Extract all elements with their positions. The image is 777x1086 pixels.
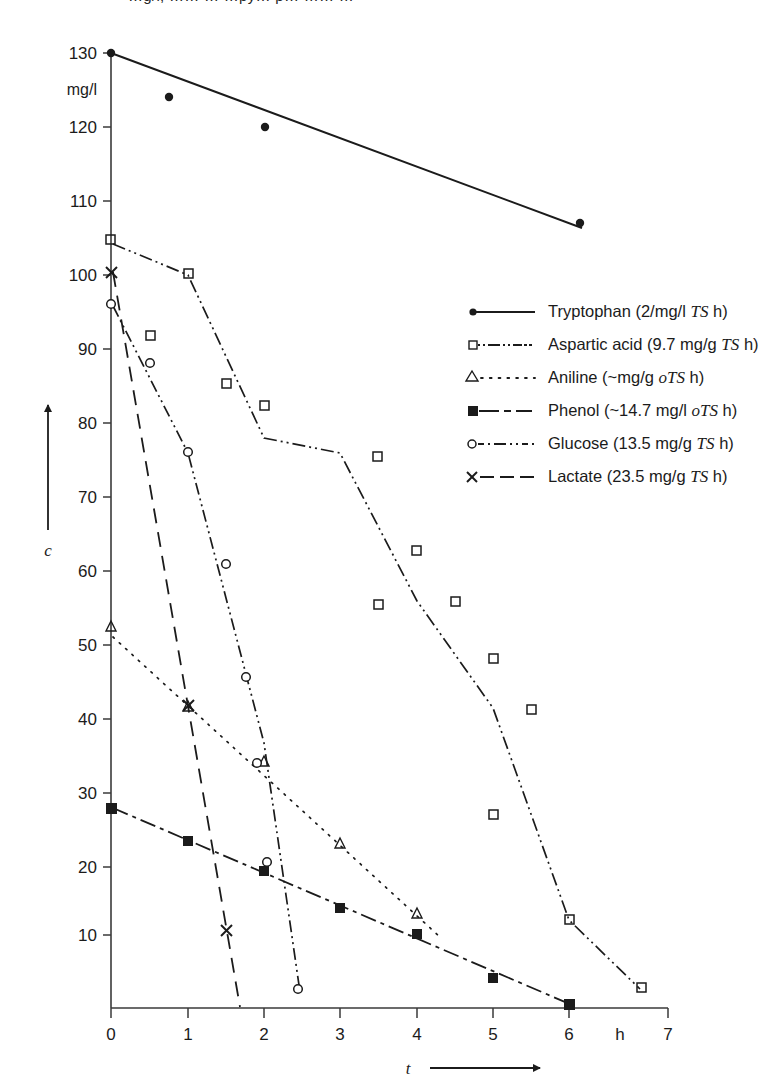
y-tick-label: 20 xyxy=(78,858,97,877)
y-axis-name-arrow: c xyxy=(44,405,52,560)
series-lactate xyxy=(106,267,240,1007)
data-point xyxy=(184,448,193,457)
y-axis-ticks xyxy=(103,53,111,935)
series-phenol xyxy=(106,803,575,1010)
data-point xyxy=(412,546,421,555)
y-tick-label: 30 xyxy=(78,784,97,803)
data-point xyxy=(564,999,575,1010)
data-point xyxy=(373,452,382,461)
data-point xyxy=(261,123,269,131)
x-tick-label: 3 xyxy=(335,1025,344,1044)
y-tick-label: 120 xyxy=(69,118,97,137)
legend-symbol-phenol xyxy=(468,406,535,416)
y-tick-label: 40 xyxy=(78,710,97,729)
series-tryptophan xyxy=(107,49,584,228)
y-axis-tick-labels: 130 120 110 100 90 80 70 60 50 40 30 20 … xyxy=(67,44,97,945)
y-axis-unit-label: mg/l xyxy=(67,81,97,98)
x-axis-tick-labels: 0 1 2 3 4 5 6 h 7 xyxy=(106,1025,672,1044)
data-point xyxy=(263,858,272,867)
x-tick-label: 6 xyxy=(564,1025,573,1044)
y-tick-label: 60 xyxy=(78,562,97,581)
figure-container: …g/l, …… … …py… p… …… … xyxy=(0,0,777,1086)
x-tick-label: 7 xyxy=(663,1025,672,1044)
y-axis-symbol: c xyxy=(44,541,52,560)
data-point xyxy=(221,925,232,936)
data-point xyxy=(259,866,269,876)
data-point xyxy=(488,973,498,983)
data-point xyxy=(222,379,231,388)
data-point xyxy=(576,219,584,227)
data-point xyxy=(107,300,116,309)
y-tick-label: 110 xyxy=(70,192,97,211)
data-point xyxy=(489,810,498,819)
data-point-group xyxy=(106,267,232,936)
data-point xyxy=(294,985,303,994)
y-tick-label: 100 xyxy=(69,266,97,285)
y-tick-label: 70 xyxy=(78,488,97,507)
data-point xyxy=(412,929,422,939)
data-point xyxy=(183,836,193,846)
legend-symbol-aniline xyxy=(466,371,535,381)
x-axis-symbol: t xyxy=(406,1059,412,1078)
data-point xyxy=(565,915,574,924)
data-point xyxy=(335,838,345,848)
series-aniline xyxy=(106,621,440,937)
x-axis-unit-label: h xyxy=(615,1025,624,1044)
chart-svg: 130 120 110 100 90 80 70 60 50 40 30 20 … xyxy=(0,0,777,1086)
data-point xyxy=(260,401,269,410)
data-point xyxy=(451,597,460,606)
data-point xyxy=(222,560,231,569)
x-axis-ticks xyxy=(111,1008,668,1018)
x-axis-name-arrow: t xyxy=(406,1059,540,1078)
y-tick-label: 130 xyxy=(69,44,97,63)
data-point xyxy=(146,331,155,340)
y-tick-label: 50 xyxy=(78,636,97,655)
data-point-group xyxy=(106,803,575,1010)
legend-label-lactate: Lactate (23.5 mg/g TS h) xyxy=(548,467,727,487)
legend-symbol-tryptophan xyxy=(469,308,535,315)
x-tick-label: 4 xyxy=(412,1025,421,1044)
y-tick-label: 90 xyxy=(78,340,97,359)
y-tick-label: 80 xyxy=(78,414,97,433)
data-point xyxy=(146,359,155,368)
x-tick-label: 5 xyxy=(488,1025,497,1044)
legend-label-glucose: Glucose (13.5 mg/g TS h) xyxy=(548,434,734,454)
legend-symbol-aspartic-acid xyxy=(469,341,535,349)
data-point xyxy=(106,803,117,814)
data-point xyxy=(527,705,536,714)
y-tick-label: 10 xyxy=(78,926,97,945)
x-tick-label: 1 xyxy=(183,1025,192,1044)
legend-symbol-glucose xyxy=(468,440,535,448)
x-tick-label: 0 xyxy=(106,1025,115,1044)
x-tick-label: 2 xyxy=(259,1025,268,1044)
legend-label-tryptophan: Tryptophan (2/mg/l TS h) xyxy=(548,302,728,322)
data-point xyxy=(374,600,383,609)
legend-label-phenol: Phenol (~14.7 mg/l oTS h) xyxy=(548,401,737,421)
data-point xyxy=(165,93,173,101)
legend-label-aniline: Aniline (~mg/g oTS h) xyxy=(548,368,704,388)
data-point xyxy=(489,654,498,663)
data-point xyxy=(107,49,115,57)
data-point xyxy=(335,903,345,913)
data-point xyxy=(253,759,262,768)
data-point xyxy=(242,673,251,682)
legend-symbols xyxy=(466,308,535,482)
legend-symbol-lactate xyxy=(467,472,535,482)
legend-label-aspartic-acid: Aspartic acid (9.7 mg/g TS h) xyxy=(548,335,759,355)
